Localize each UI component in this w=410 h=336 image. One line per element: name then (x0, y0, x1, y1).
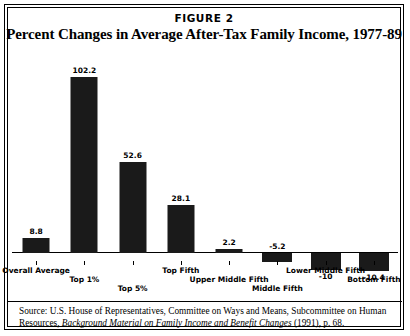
bar-group: -10.4 (350, 49, 398, 297)
category-label: Bottom Fifth (347, 275, 401, 284)
source-note: Source: U.S. House of Representatives, C… (19, 306, 393, 329)
axis-tick (133, 261, 134, 265)
bar-group: 8.8 (12, 49, 60, 297)
category-label: Top 5% (118, 284, 148, 293)
category-label: Middle Fifth (252, 284, 303, 293)
bar-group: -10 (302, 49, 350, 297)
axis-tick (181, 261, 182, 265)
bar (119, 162, 146, 253)
axis-tick (277, 261, 278, 265)
bar-chart-plot-area: 8.8102.252.628.12.2-5.2-10-10.4 (12, 49, 398, 297)
source-divider (8, 301, 402, 302)
bar (216, 249, 243, 253)
axis-tick (36, 261, 37, 265)
category-axis: Overall AverageTop 1%Top 5%Top FifthUppe… (12, 261, 398, 297)
figure-label: FIGURE 2 (5, 12, 403, 24)
source-tail: (1991), p. 68. (292, 318, 345, 328)
category-label: Overall Average (2, 266, 70, 275)
category-label: Upper Middle Fifth (190, 275, 269, 284)
bar-value-label: 102.2 (73, 66, 97, 75)
bar-group: 2.2 (205, 49, 253, 297)
bar-value-label: 2.2 (222, 238, 235, 247)
bar (71, 77, 98, 253)
bar-value-label: 52.6 (123, 151, 142, 160)
bar-value-label: 8.8 (29, 227, 42, 236)
bar (167, 205, 194, 253)
figure-title: Percent Changes in Average After-Tax Fam… (5, 26, 403, 43)
source-publication-title: Background Material on Family Income and… (62, 318, 292, 328)
axis-tick (326, 261, 327, 265)
bar-group: -5.2 (253, 49, 301, 297)
bar (23, 238, 50, 253)
bar-group: 28.1 (157, 49, 205, 297)
axis-tick (229, 261, 230, 265)
bar-group: 52.6 (109, 49, 157, 297)
category-label: Lower Middle Fifth (286, 266, 365, 275)
axis-tick (84, 261, 85, 265)
category-label: Top 1% (69, 275, 99, 284)
bar-value-label: -5.2 (269, 242, 285, 251)
figure-frame: FIGURE 2 Percent Changes in Average Afte… (4, 4, 404, 330)
bar-group: 102.2 (60, 49, 108, 297)
axis-tick (374, 261, 375, 265)
bar-value-label: 28.1 (172, 194, 191, 203)
category-label: Top Fifth (162, 266, 199, 275)
